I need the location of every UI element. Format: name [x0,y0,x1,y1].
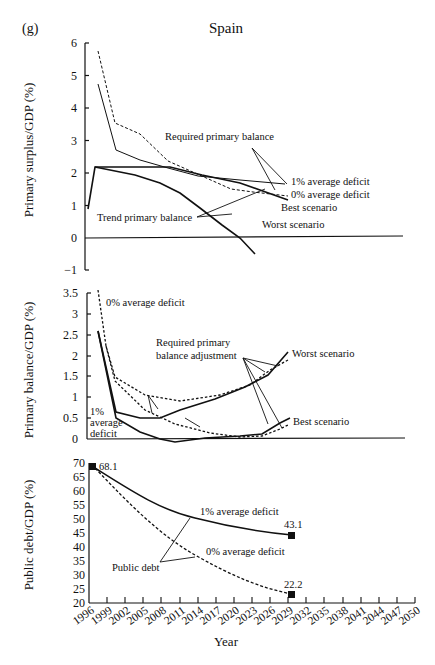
panel-label: (g) [22,21,39,37]
svg-text:35: 35 [73,554,85,568]
x-axis-tick-marks [107,597,415,603]
svg-text:68.1: 68.1 [99,461,117,472]
top-annotations: Required primary balance 1% average defi… [97,131,370,230]
svg-text:3: 3 [71,134,77,148]
svg-text:0: 0 [71,231,77,245]
svg-text:Best scenario: Best scenario [293,416,349,427]
bottom-y-ticks: 70 65 60 55 50 45 40 35 30 25 20 [73,456,85,610]
svg-text:1% average deficit: 1% average deficit [200,506,279,517]
svg-text:Trend primary balance: Trend primary balance [97,212,193,223]
svg-text:43.1: 43.1 [284,519,302,530]
bottom-y-axis-label: Public debt/GDP (%) [21,480,36,591]
svg-text:0: 0 [72,432,78,446]
bottom-panel: Public debt/GDP (%) 70 65 60 55 50 45 40… [21,456,422,649]
svg-text:Worst scenario: Worst scenario [292,348,354,359]
chart-title: Spain [209,20,244,36]
top-trend-worst-line [95,167,255,254]
svg-text:average: average [90,417,123,428]
marker-43-1 [288,532,295,539]
svg-text:0% average deficit: 0% average deficit [106,297,185,308]
svg-text:55: 55 [73,498,85,512]
svg-text:0% average deficit: 0% average deficit [291,189,370,200]
svg-text:6: 6 [71,36,77,50]
svg-text:balance adjustment: balance adjustment [156,350,237,361]
top-y-axis-label: Primary surplus/GDP (%) [21,83,36,218]
svg-text:1: 1 [72,390,78,404]
svg-text:Required primary: Required primary [156,337,231,348]
svg-text:1.5: 1.5 [63,369,78,383]
svg-text:1: 1 [71,199,77,213]
svg-text:50: 50 [73,512,85,526]
middle-y-axis-label: Primary balance/GDP (%) [21,302,36,439]
chart-figure: (g) Spain Primary surplus/GDP (%) 6 5 4 … [0,0,435,665]
marker-68-1 [89,463,96,470]
marker-22-2 [288,591,295,598]
svg-text:70: 70 [73,456,85,470]
svg-text:4: 4 [71,101,77,115]
top-panel: Primary surplus/GDP (%) 6 5 4 3 2 1 0 −1 [21,36,403,277]
middle-y-ticks: 3.5 3 2.5 2 1.5 1 0.5 0 [63,286,78,446]
svg-text:25: 25 [73,582,85,596]
svg-text:30: 30 [73,568,85,582]
svg-text:Worst scenario: Worst scenario [262,219,324,230]
svg-text:Best scenario: Best scenario [281,202,337,213]
svg-text:2050: 2050 [396,604,422,627]
svg-text:22.2: 22.2 [284,579,302,590]
svg-text:Public debt: Public debt [112,562,160,573]
svg-text:0% average deficit: 0% average deficit [206,546,285,557]
svg-text:1%: 1% [90,406,104,417]
bottom-annotation-arrows [160,518,195,562]
x-axis-tick-labels: 1996 1999 2002 2005 2008 2011 2014 2017 … [70,604,422,627]
bottom-annotations: 68.1 43.1 22.2 1% average deficit 0% ave… [99,461,302,590]
middle-annotations: 0% average deficit Required primary bala… [90,297,354,439]
svg-text:0.5: 0.5 [63,411,78,425]
svg-text:45: 45 [73,526,85,540]
svg-text:5: 5 [71,69,77,83]
bottom-1pct-line [95,468,292,535]
svg-text:3.5: 3.5 [63,286,78,300]
svg-text:Required primary balance: Required primary balance [165,131,274,142]
top-zero-line [85,236,403,238]
svg-text:2.5: 2.5 [63,328,78,342]
svg-text:2: 2 [71,166,77,180]
svg-text:60: 60 [73,484,85,498]
svg-text:65: 65 [73,470,85,484]
svg-text:40: 40 [73,540,85,554]
middle-panel: Primary balance/GDP (%) 3.5 3 2.5 2 1.5 … [21,286,405,446]
middle-annotation-arrows [148,358,282,428]
middle-x-axis [87,438,405,439]
svg-text:deficit: deficit [90,428,117,439]
top-y-ticks: 6 5 4 3 2 1 0 −1 [64,36,77,277]
svg-text:2: 2 [72,349,78,363]
svg-text:3: 3 [72,307,78,321]
svg-text:−1: −1 [64,263,77,277]
svg-text:1% average deficit: 1% average deficit [291,176,370,187]
x-axis-label: Year [214,634,239,649]
